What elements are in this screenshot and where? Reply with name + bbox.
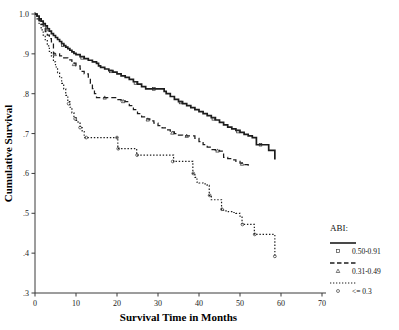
y-axis-title: Cumulative Survival (2, 105, 14, 202)
censor-circle-marker (74, 117, 77, 120)
x-tick-label: 40 (195, 299, 203, 308)
legend-label-2: <= 0.3 (352, 287, 372, 296)
y-tick-label: .8 (23, 90, 29, 99)
series-0 (35, 14, 275, 159)
legend-triangle-marker (336, 269, 340, 272)
y-tick-label: 1.0 (19, 10, 29, 19)
legend-label-0: 0.50-0.91 (352, 247, 381, 256)
y-tick-label: .7 (23, 130, 29, 139)
censor-triangle-marker (121, 99, 124, 102)
legend-circle-marker (337, 290, 340, 293)
x-tick-label: 60 (277, 299, 285, 308)
y-tick-label: .4 (23, 249, 29, 258)
censor-triangle-marker (216, 149, 219, 152)
survival-chart-figure: 1.0.9.8.7.6.5.4.3010203040506070Survival… (0, 0, 399, 330)
legend-label-1: 0.31-0.49 (352, 267, 381, 276)
curve-dashed (35, 14, 248, 167)
x-tick-label: 50 (236, 299, 244, 308)
plot-area: 1.0.9.8.7.6.5.4.3010203040506070Survival… (0, 0, 399, 330)
censor-circle-marker (67, 102, 70, 105)
y-tick-label: .9 (23, 50, 29, 59)
y-tick-label: .5 (23, 209, 29, 218)
y-tick-label: .6 (23, 169, 29, 178)
legend-title: ABI: (330, 223, 348, 233)
x-tick-label: 30 (154, 299, 162, 308)
legend: ABI:0.50-0.910.31-0.49<= 0.3 (330, 223, 381, 296)
y-tick-label: .3 (23, 289, 29, 298)
x-tick-label: 0 (33, 299, 37, 308)
x-tick-label: 10 (72, 299, 80, 308)
series-1 (35, 14, 248, 167)
legend-square-marker (337, 250, 340, 253)
x-axis-title: Survival Time in Months (120, 311, 238, 323)
curve-solid (35, 14, 275, 159)
x-tick-label: 70 (318, 299, 326, 308)
x-tick-label: 20 (113, 299, 121, 308)
